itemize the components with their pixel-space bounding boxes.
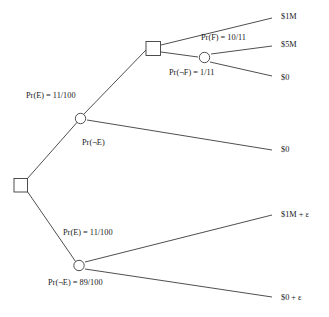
edge-label-lower-prob-not-e: Pr(¬E) = 89/100 bbox=[48, 278, 103, 287]
edge-label-prob-not-f: Pr(¬F) = 1/11 bbox=[169, 68, 214, 77]
edge-inner-chance-to-payoff-third bbox=[210, 62, 272, 76]
edge-label-upper-prob-not-e: Pr(¬E) bbox=[82, 138, 105, 147]
decision-tree-diagram: Pr(E) = 11/100 Pr(¬E) Pr(F) = 10/11 Pr(¬… bbox=[0, 0, 329, 317]
edge-root-to-upper-chance bbox=[27, 119, 80, 179]
edge-upper-chance-to-payoff-fourth bbox=[87, 120, 272, 150]
payoff-label-sixth: $0 + ε bbox=[281, 293, 302, 302]
payoff-label-top: $1M bbox=[281, 12, 297, 21]
payoff-label-fourth: $0 bbox=[281, 145, 289, 154]
edge-lower-chance-to-payoff-fifth bbox=[85, 215, 272, 262]
edge-label-lower-prob-e: Pr(E) = 11/100 bbox=[63, 228, 113, 237]
edge-label-prob-f: Pr(F) = 10/11 bbox=[201, 33, 246, 42]
edge-upper-decision-to-inner-chance bbox=[161, 52, 198, 57]
edge-label-upper-prob-e: Pr(E) = 11/100 bbox=[26, 91, 76, 100]
upper-decision-node[interactable] bbox=[146, 42, 161, 56]
edge-lower-chance-to-payoff-sixth bbox=[85, 269, 272, 297]
tree-canvas: Pr(E) = 11/100 Pr(¬E) Pr(F) = 10/11 Pr(¬… bbox=[0, 0, 329, 317]
payoff-label-third: $0 bbox=[281, 73, 289, 82]
upper-inner-chance-node[interactable] bbox=[199, 52, 209, 62]
upper-chance-node[interactable] bbox=[75, 113, 85, 123]
payoff-label-second: $5M bbox=[281, 40, 297, 49]
root-decision-node[interactable] bbox=[14, 179, 28, 193]
lower-chance-node[interactable] bbox=[74, 260, 84, 270]
payoff-label-fifth: $1M + ε bbox=[281, 210, 310, 219]
edge-upper-chance-to-decision bbox=[84, 50, 146, 114]
edge-inner-chance-to-payoff-second bbox=[211, 46, 272, 54]
